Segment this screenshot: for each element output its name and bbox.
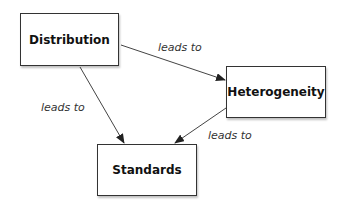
node-standards: Standards [97, 144, 197, 196]
edge-label-heterogeneity-standards: leads to [208, 129, 252, 142]
edge-label-distribution-standards: leads to [41, 101, 85, 114]
node-label: Distribution [29, 33, 110, 47]
node-label: Standards [112, 163, 181, 177]
edge-label-distribution-heterogeneity: leads to [158, 41, 202, 54]
node-distribution: Distribution [20, 13, 119, 66]
node-label: Heterogeneity [227, 85, 324, 99]
node-heterogeneity: Heterogeneity [226, 66, 326, 118]
edge-distribution-standards [80, 67, 124, 143]
